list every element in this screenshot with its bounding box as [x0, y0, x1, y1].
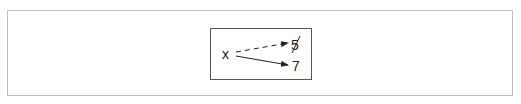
variable-name: x [222, 46, 229, 62]
state-diagram: x 5 7 [0, 0, 521, 104]
current-value-label: 7 [292, 58, 300, 74]
old-value-label: 5 [291, 37, 299, 53]
